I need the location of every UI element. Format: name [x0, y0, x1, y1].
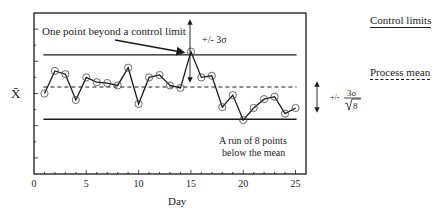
x-tick-label: 20	[238, 178, 248, 189]
annotation-beyond-limit: One point beyond a control limit	[42, 25, 186, 37]
series-line	[44, 52, 295, 120]
x-tick-label: 15	[186, 178, 196, 189]
data-series	[41, 48, 299, 124]
annotation-sigma: +/- 3σ	[202, 34, 227, 45]
annotation-arrow	[115, 40, 181, 52]
x-tick-label: 0	[32, 178, 37, 189]
annotation-sigma-root-num: 3σ	[347, 88, 357, 98]
x-axis-label: Day	[168, 195, 187, 207]
x-tick-label: 25	[291, 178, 301, 189]
y-axis-label: X̄	[11, 86, 21, 101]
annotation-sigma-root-prefix: +/-	[330, 93, 340, 102]
legend-control-limits: Control limits	[370, 14, 431, 28]
x-tick-label: 10	[134, 178, 144, 189]
legend-process-mean: Process mean	[370, 66, 430, 80]
x-ticks: 0510152025	[32, 170, 301, 189]
x-tick-label: 5	[84, 178, 89, 189]
annotation-sigma-root-den: 8	[353, 101, 358, 111]
annotation-run-line2: below the mean	[222, 147, 285, 158]
annotation-run-line1: A run of 8 points	[219, 135, 287, 146]
control-chart: 0510152025 X̄ Day One point beyond a con…	[0, 0, 443, 215]
